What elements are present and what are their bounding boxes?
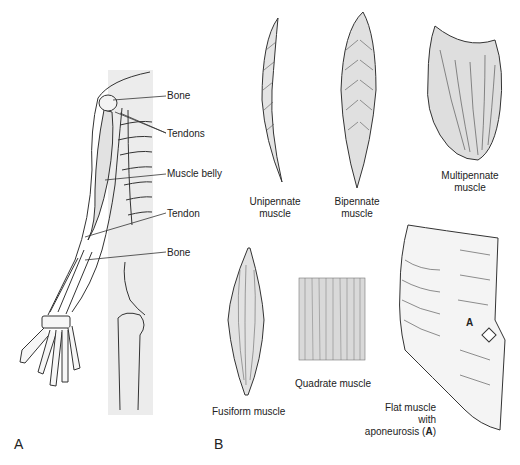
panel-letter-a: A bbox=[14, 436, 23, 452]
hand-skeleton bbox=[20, 316, 80, 386]
unipennate-line1: Unipennate bbox=[240, 196, 310, 208]
humerus-head bbox=[99, 95, 117, 111]
label-bone-top: Bone bbox=[167, 90, 190, 102]
label-bipennate: Bipennate muscle bbox=[322, 196, 392, 220]
label-tendons: Tendons bbox=[167, 128, 205, 140]
label-flat-muscle: Flat muscle with aponeurosis (A) bbox=[350, 402, 436, 438]
quadrate-muscle-shape bbox=[299, 278, 365, 360]
flat-line2: with bbox=[350, 414, 436, 426]
anatomy-illustration bbox=[0, 0, 520, 465]
label-unipennate: Unipennate muscle bbox=[240, 196, 310, 220]
bipennate-line1: Bipennate bbox=[322, 196, 392, 208]
panel-letter-b: B bbox=[214, 436, 223, 452]
label-multipennate: Multipennate muscle bbox=[430, 170, 510, 194]
label-muscle-belly: Muscle belly bbox=[167, 168, 222, 180]
aponeurosis-label: A bbox=[466, 317, 473, 329]
multipennate-muscle-shape bbox=[428, 26, 502, 160]
label-quadrate: Quadrate muscle bbox=[295, 378, 371, 390]
label-tendon: Tendon bbox=[167, 208, 200, 220]
flat-line3: aponeurosis (A) bbox=[350, 426, 436, 438]
flat-line3-suffix: ) bbox=[433, 426, 436, 437]
multipennate-line2: muscle bbox=[430, 182, 510, 194]
bipennate-muscle-shape bbox=[341, 12, 376, 188]
multipennate-line1: Multipennate bbox=[430, 170, 510, 182]
label-fusiform: Fusiform muscle bbox=[212, 406, 285, 418]
bipennate-line2: muscle bbox=[322, 208, 392, 220]
unipennate-muscle-shape bbox=[262, 18, 282, 182]
flat-line1: Flat muscle bbox=[350, 402, 436, 414]
flat-line3-bold: A bbox=[425, 426, 432, 437]
flat-line3-prefix: aponeurosis ( bbox=[365, 426, 426, 437]
unipennate-line2: muscle bbox=[240, 208, 310, 220]
label-bone-bottom: Bone bbox=[167, 247, 190, 259]
